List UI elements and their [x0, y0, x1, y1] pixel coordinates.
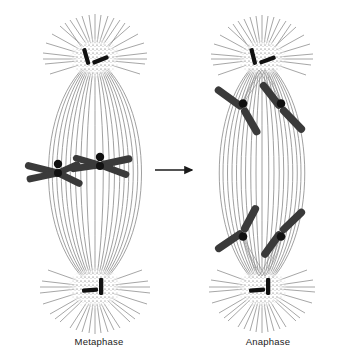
mitosis-diagram: [0, 0, 340, 356]
panel-label-metaphase: Metaphase: [0, 336, 198, 347]
centrosome-cloud-top-metaphase: [69, 37, 121, 79]
figure-canvas: [0, 0, 340, 356]
background: [0, 0, 340, 356]
panel-label-anaphase: Anaphase: [196, 336, 340, 347]
centrosome-cloud-top-anaphase: [237, 38, 287, 78]
